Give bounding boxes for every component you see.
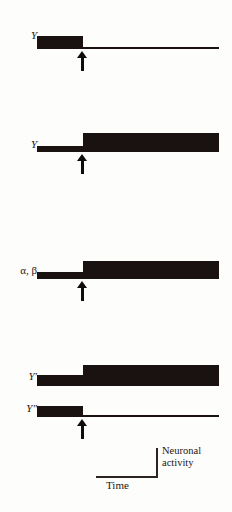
activity-axis-label-line1: Neuronal bbox=[162, 445, 201, 456]
trace-3-pre-segment bbox=[37, 272, 83, 279]
trace-row-1: Y bbox=[0, 30, 232, 76]
trace-row-2: Y bbox=[0, 125, 232, 171]
trace-2-pre-segment bbox=[37, 146, 83, 152]
trace-5-pre-segment bbox=[37, 406, 83, 417]
trace-5-post-segment bbox=[83, 415, 219, 417]
trace-1-transition-arrow-icon bbox=[77, 51, 88, 71]
trace-row-4: Y′ bbox=[0, 355, 232, 401]
scale-bar-legend: Time Neuronal activity bbox=[96, 440, 232, 502]
trace-3-label: α, β bbox=[20, 265, 37, 276]
trace-3-post-segment bbox=[83, 261, 219, 279]
trace-4-post-segment bbox=[83, 365, 219, 386]
trace-1-pre-segment bbox=[37, 36, 83, 49]
trace-5-transition-arrow-icon bbox=[77, 419, 88, 439]
trace-4-pre-segment bbox=[37, 375, 83, 386]
time-axis-scale-bar bbox=[96, 476, 158, 478]
trace-5-label: Y″ bbox=[26, 403, 37, 414]
activity-axis-scale-bar bbox=[156, 448, 158, 478]
activity-axis-label: Neuronal activity bbox=[162, 445, 230, 470]
trace-2-post-segment bbox=[83, 133, 219, 152]
time-axis-label: Time bbox=[106, 479, 129, 491]
trace-4-label: Y′ bbox=[28, 371, 37, 382]
trace-row-3: α, β bbox=[0, 252, 232, 298]
trace-2-transition-arrow-icon bbox=[77, 154, 88, 174]
neuronal-activity-figure: Y Y α, β Y′ bbox=[0, 0, 232, 512]
trace-3-transition-arrow-icon bbox=[77, 281, 88, 301]
trace-1-post-segment bbox=[83, 47, 219, 49]
activity-axis-label-line2: activity bbox=[162, 457, 194, 468]
